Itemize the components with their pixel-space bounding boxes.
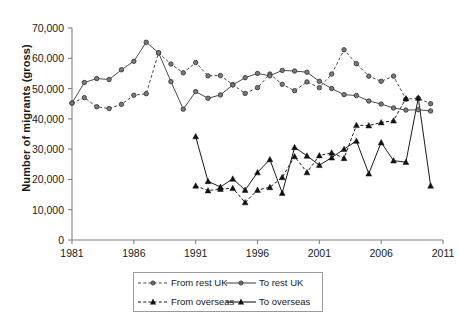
- legend-item-to-overseas: To overseas: [222, 296, 322, 307]
- legend-label-to-rest-uk: To rest UK: [259, 277, 303, 288]
- x-tick-label: 1991: [176, 247, 216, 259]
- chart-legend: From rest UK To rest UK From overseas To…: [133, 272, 323, 312]
- legend-item-from-rest-uk: From rest UK: [134, 277, 222, 288]
- legend-label-from-rest-uk: From rest UK: [171, 277, 227, 288]
- legend-key-to-rest-uk: [226, 278, 256, 288]
- x-tick-label: 1981: [52, 247, 92, 259]
- legend-key-to-overseas: [226, 297, 256, 307]
- x-tick-label: 2006: [361, 247, 401, 259]
- legend-item-from-overseas: From overseas: [134, 296, 222, 307]
- legend-key-from-rest-uk: [138, 278, 168, 288]
- x-tick-label: 1986: [114, 247, 154, 259]
- legend-item-to-rest-uk: To rest UK: [222, 277, 322, 288]
- legend-key-from-overseas: [138, 297, 168, 307]
- x-tick-label: 1996: [238, 247, 278, 259]
- legend-label-to-overseas: To overseas: [259, 296, 310, 307]
- x-tick-label: 2011: [423, 247, 459, 259]
- x-tick-label: 2001: [299, 247, 339, 259]
